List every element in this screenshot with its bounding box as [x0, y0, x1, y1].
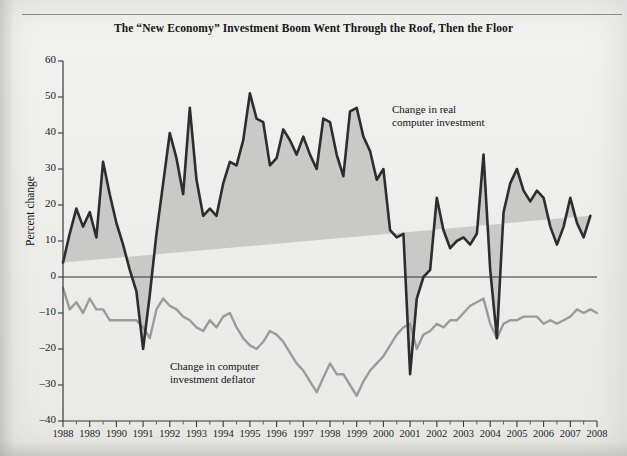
x-tick-marks — [63, 421, 597, 427]
y-tick-label: –30 — [26, 377, 56, 389]
y-tick-marks — [58, 61, 63, 421]
y-tick-label: –20 — [26, 341, 56, 353]
annotation-investment-line2: computer investment — [392, 116, 485, 129]
y-tick-label: –10 — [26, 305, 56, 317]
annotation-deflator-line1: Change in computer — [170, 360, 259, 373]
y-tick-label: 40 — [26, 125, 56, 137]
y-tick-label: 50 — [26, 89, 56, 101]
annotation-investment: Change in real computer investment — [392, 103, 485, 129]
x-tick-label: 2008 — [577, 428, 617, 439]
annotation-deflator: Change in computer investment deflator — [170, 360, 259, 386]
page-edge-shadow-left — [0, 0, 14, 456]
y-tick-label: –40 — [26, 413, 56, 425]
page-edge-shadow-bottom — [0, 440, 627, 456]
axes-group — [58, 61, 597, 427]
annotation-investment-line1: Change in real — [392, 103, 485, 116]
chart-svg — [0, 0, 627, 456]
annotation-deflator-line2: investment deflator — [170, 373, 259, 386]
y-axis-title: Percent change — [24, 146, 36, 276]
y-tick-label: 60 — [26, 53, 56, 65]
plot-area: 6050403020100–10–20–30–40 19881989199019… — [0, 0, 627, 456]
figure-canvas: The “New Economy” Investment Boom Went T… — [0, 0, 627, 456]
